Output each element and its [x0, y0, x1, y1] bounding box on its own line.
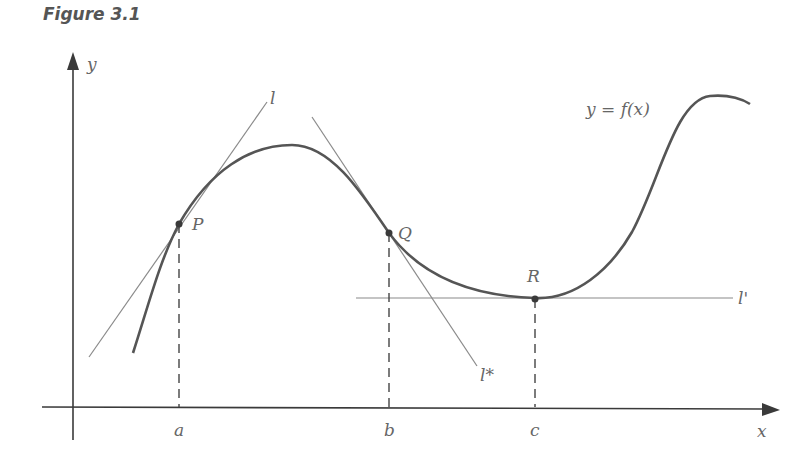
curve-label: y = f(x) [585, 99, 650, 119]
point-r [532, 296, 539, 303]
tangent-label-l-prime: l' [738, 288, 748, 308]
x-axis [42, 407, 768, 409]
point-q [386, 230, 393, 237]
tangent-line-l [89, 102, 267, 357]
tangent-label-l: l [270, 88, 275, 108]
curve-f [133, 96, 750, 353]
y-axis-label: y [86, 54, 97, 74]
function-diagram: y x P Q R a b c l l* l' y = f(x) [0, 0, 804, 467]
tick-label-c: c [530, 420, 540, 440]
point-p [176, 221, 183, 228]
x-axis-arrow-icon [762, 403, 780, 416]
point-q-label: Q [398, 223, 412, 243]
tangent-label-l-star: l* [480, 365, 494, 385]
y-axis-arrow-icon [67, 52, 79, 70]
tick-label-b: b [384, 420, 395, 440]
point-p-label: P [191, 214, 204, 234]
x-axis-label: x [757, 421, 767, 441]
point-r-label: R [526, 266, 540, 286]
tick-label-a: a [174, 420, 184, 440]
